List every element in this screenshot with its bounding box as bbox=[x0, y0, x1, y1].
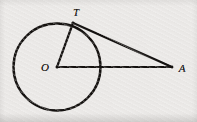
label-point-A: A bbox=[179, 63, 186, 74]
geometry-figure: O T A bbox=[0, 0, 197, 122]
label-point-O: O bbox=[41, 62, 49, 73]
segment-OT bbox=[57, 23, 73, 67]
vertex-dot-A bbox=[171, 66, 174, 69]
segment-TA bbox=[73, 23, 172, 67]
geometry-canvas bbox=[0, 0, 197, 122]
label-point-T: T bbox=[73, 7, 79, 18]
vertex-dot-T bbox=[71, 21, 74, 24]
vertex-dot-O bbox=[56, 66, 59, 69]
